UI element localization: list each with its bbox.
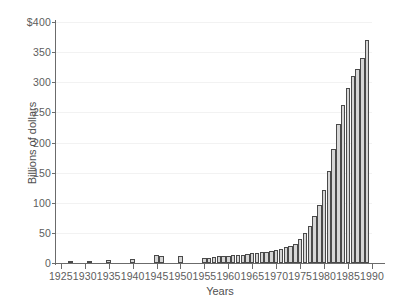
bar [226, 256, 230, 263]
bar [351, 76, 355, 263]
x-axis-tick-label: 1930 [73, 270, 97, 282]
x-axis-tick-label: 1980 [312, 270, 336, 282]
gridline [56, 22, 372, 23]
x-axis-tick-label: 1965 [240, 270, 264, 282]
x-axis-tick-mark [61, 264, 62, 269]
x-axis-tick-label: 1940 [121, 270, 145, 282]
y-axis-tick-label: $400 [27, 16, 51, 28]
x-axis-tick-mark [252, 264, 253, 269]
x-axis-tick-mark [324, 264, 325, 269]
x-axis-tick-mark [157, 264, 158, 269]
bar [331, 149, 335, 263]
y-axis-tick-label: 150 [33, 167, 51, 179]
bar [308, 226, 312, 263]
x-axis-tick-label: 1950 [169, 270, 193, 282]
chart-figure: Billions of dollars 05010015020025030035… [0, 0, 401, 307]
bar [236, 255, 240, 263]
gridline [56, 82, 372, 83]
bar [284, 247, 288, 263]
bar [241, 255, 245, 263]
bar [106, 260, 110, 263]
bar [317, 205, 321, 263]
gridline [56, 143, 372, 144]
bar [336, 124, 340, 263]
bar [288, 246, 292, 263]
y-axis-tick-label: 200 [33, 137, 51, 149]
y-axis-tick-labels: 050100150200250300350$400 [0, 0, 51, 307]
bar [341, 105, 345, 263]
bar [202, 258, 206, 263]
bar [269, 251, 273, 263]
bar [87, 261, 91, 263]
x-axis-line [55, 263, 385, 264]
gridline [56, 52, 372, 53]
y-axis-tick-label: 350 [33, 46, 51, 58]
y-axis-tick-label: 100 [33, 197, 51, 209]
bar [346, 88, 350, 263]
x-axis-tick-mark [276, 264, 277, 269]
x-axis-tick-mark [204, 264, 205, 269]
x-axis-tick-mark [348, 264, 349, 269]
bar [312, 216, 316, 263]
x-axis-tick-label: 1960 [216, 270, 240, 282]
bar [327, 171, 331, 263]
x-axis-tick-mark [180, 264, 181, 269]
x-axis-tick-label: 1935 [97, 270, 121, 282]
bar [279, 249, 283, 263]
bar [255, 253, 259, 263]
x-axis-tick-label: 1990 [360, 270, 384, 282]
x-axis-tick-mark [228, 264, 229, 269]
bar [245, 254, 249, 263]
x-axis-tick-mark [85, 264, 86, 269]
x-axis-label: Years [55, 285, 385, 297]
bar [68, 261, 72, 263]
bar [250, 253, 254, 263]
bar [298, 239, 302, 263]
bar [221, 256, 225, 263]
plot-area [56, 22, 372, 263]
x-axis-tick-label: 1970 [264, 270, 288, 282]
bar [207, 258, 211, 263]
bar [260, 252, 264, 263]
bar [293, 244, 297, 263]
bar [360, 58, 364, 263]
bar [322, 190, 326, 264]
x-axis-tick-label: 1925 [49, 270, 73, 282]
bar [212, 257, 216, 263]
gridline [56, 173, 372, 174]
bar [355, 69, 359, 263]
bar [365, 40, 369, 263]
x-axis-tick-mark [109, 264, 110, 269]
bar [217, 256, 221, 263]
x-axis-tick-label: 1945 [145, 270, 169, 282]
y-axis-tick-label: 50 [39, 227, 51, 239]
x-axis-tick-label: 1955 [193, 270, 217, 282]
x-axis-tick-label: 1975 [288, 270, 312, 282]
bar [154, 255, 158, 263]
gridline [56, 112, 372, 113]
bar [231, 255, 235, 263]
bar [274, 250, 278, 263]
bar [159, 256, 163, 263]
x-axis-tick-mark [133, 264, 134, 269]
y-axis-tick-label: 250 [33, 106, 51, 118]
bar [303, 233, 307, 263]
bar [178, 256, 182, 263]
x-axis-tick-mark [372, 264, 373, 269]
bar [264, 252, 268, 263]
x-axis-tick-label: 1985 [336, 270, 360, 282]
x-axis-tick-mark [300, 264, 301, 269]
y-axis-tick-label: 300 [33, 76, 51, 88]
bar [130, 259, 134, 263]
